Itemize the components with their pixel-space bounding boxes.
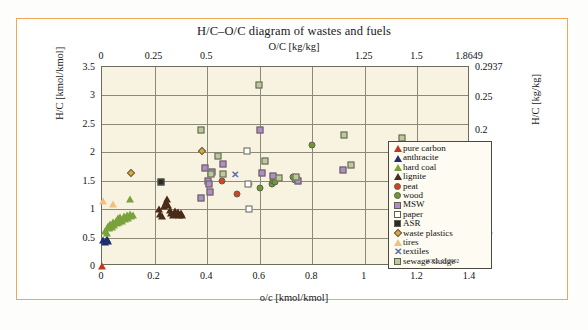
- data-point-MSW: [220, 160, 227, 167]
- data-point-sewage-sludge: [256, 81, 263, 88]
- top-axis-title: O/C [kg/kg]: [0, 41, 588, 52]
- axis-tick-label: 1.5: [410, 50, 423, 61]
- data-point-wood: [257, 184, 264, 191]
- data-point-peat: [234, 191, 241, 198]
- gridline-vertical: [260, 67, 261, 264]
- axis-tick-label: 0: [67, 260, 95, 271]
- data-point-MSW: [340, 167, 347, 174]
- square-icon: [392, 202, 403, 209]
- chart-title: H/C–O/C diagram of wastes and fuels: [0, 24, 588, 39]
- y-axis-title: H/C [kmol/kmol]: [54, 47, 65, 120]
- data-point-wood: [309, 142, 316, 149]
- data-point-paper: [245, 206, 252, 213]
- axis-tick-label: 0.8: [305, 270, 318, 281]
- axis-tick-label: 0.2: [475, 124, 488, 135]
- triangle-icon: [392, 155, 403, 162]
- data-point-sewage-sludge: [275, 174, 282, 181]
- data-point-MSW: [206, 181, 213, 188]
- axis-tick-label: 1.25: [355, 50, 373, 61]
- axis-tick-label: 1.5: [67, 174, 95, 185]
- axis-tick-label: 0.25: [145, 50, 163, 61]
- triangle-icon: [392, 145, 403, 152]
- legend[interactable]: pure carbonanthracitehard coallignitepea…: [388, 141, 492, 269]
- axis-tick-label: 0: [99, 270, 104, 281]
- data-point-lignite: [178, 211, 186, 218]
- data-point-ASR: [158, 178, 165, 185]
- axis-tick-label: 2: [67, 146, 95, 157]
- data-point-sewage-sludge: [208, 170, 215, 177]
- right-axis-title: H/C [kg/kg]: [530, 74, 541, 125]
- data-point-anthracite: [104, 237, 112, 244]
- gridline-vertical: [365, 67, 366, 264]
- figure-stamp: WJ51. 11/2002: [426, 259, 459, 264]
- axis-tick-label: 3: [67, 89, 95, 100]
- gridline-vertical: [312, 67, 313, 264]
- data-point-tires: [99, 198, 107, 205]
- triangle-icon: [392, 164, 403, 171]
- axis-tick-label: 2.5: [67, 117, 95, 128]
- data-point-textiles: ✕: [231, 170, 239, 177]
- data-point-paper: [245, 180, 252, 187]
- data-point-MSW: [258, 169, 265, 176]
- chart-canvas: H/C–O/C diagram of wastes and fuels O/C …: [0, 0, 588, 330]
- data-point-tires: [109, 201, 117, 208]
- square-icon: [392, 220, 403, 227]
- square-icon: [392, 211, 403, 218]
- gridline-vertical: [155, 67, 156, 264]
- axis-tick-label: 0.2937: [475, 61, 503, 72]
- axis-tick-label: 0.25: [475, 90, 493, 101]
- data-point-sewage-sludge: [348, 161, 355, 168]
- data-point-MSW: [207, 189, 214, 196]
- figure-root: H/C–O/C diagram of wastes and fuels O/C …: [0, 0, 588, 330]
- data-point-waste-plastics: [199, 148, 205, 154]
- axis-tick-label: 1.4: [463, 270, 476, 281]
- circle-icon: [392, 192, 403, 199]
- x-axis-title: o/c [kmol/kmol]: [0, 292, 588, 303]
- x-icon: ✕: [392, 248, 403, 255]
- data-point-hard-coal: [129, 211, 137, 218]
- axis-tick-label: 1.2: [410, 270, 423, 281]
- axis-tick-label: 0.4: [200, 270, 213, 281]
- axis-tick-label: 0.5: [200, 50, 213, 61]
- data-point-sewage-sludge: [197, 126, 204, 133]
- axis-tick-label: 1: [361, 270, 366, 281]
- data-point-sewage-sludge: [220, 170, 227, 177]
- circle-icon: [392, 183, 403, 190]
- axis-tick-label: 0.5: [67, 231, 95, 242]
- square-icon: [392, 258, 403, 265]
- data-point-hard-coal: [126, 195, 134, 202]
- gridline-horizontal: [102, 124, 468, 125]
- data-point-pure-carbon: [98, 263, 106, 270]
- data-point-MSW: [198, 194, 205, 201]
- axis-tick-label: 1.8649: [455, 50, 483, 61]
- diamond-icon: [392, 230, 403, 236]
- axis-tick-label: 0.2: [147, 270, 160, 281]
- data-point-peat: [218, 177, 225, 184]
- axis-tick-label: 0: [99, 50, 104, 61]
- triangle-icon: [392, 239, 403, 246]
- data-point-sewage-sludge: [341, 131, 348, 138]
- data-point-sewage-sludge: [262, 157, 269, 164]
- data-point-paper: [244, 148, 251, 155]
- data-point-sewage-sludge: [292, 174, 299, 181]
- data-point-sewage-sludge: [215, 152, 222, 159]
- data-point-MSW: [256, 126, 263, 133]
- triangle-icon: [392, 173, 403, 180]
- axis-tick-label: 0.6: [252, 270, 265, 281]
- data-point-waste-plastics: [128, 170, 134, 176]
- gridline-horizontal: [102, 95, 468, 96]
- axis-tick-label: 1: [67, 203, 95, 214]
- data-point-lignite: [158, 212, 166, 219]
- axis-tick-label: 3.5: [67, 61, 95, 72]
